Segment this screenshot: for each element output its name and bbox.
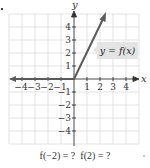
right-ray-arrow-icon (100, 12, 107, 22)
function-graph: y = f(x) y x −4 −3 −2 −1 1 2 3 4 4 3 2 1… (0, 0, 150, 168)
svg-text:−3: −3 (58, 113, 72, 123)
function-curve (9, 12, 106, 82)
svg-text:−4: −4 (58, 126, 72, 136)
svg-text:−2: −2 (58, 100, 71, 110)
question-caption: f(−2) = ? f(2) = ? (0, 150, 150, 161)
svg-text:−4: −4 (14, 82, 28, 92)
svg-text:−2: −2 (40, 82, 53, 92)
svg-text:4: 4 (65, 22, 71, 32)
decorative-dot (143, 155, 145, 157)
y-axis-label: y (71, 0, 78, 10)
svg-text:2: 2 (97, 82, 103, 92)
x-axis-arrow-icon (133, 77, 139, 82)
svg-text:−3: −3 (27, 82, 41, 92)
svg-text:1: 1 (65, 61, 71, 71)
svg-text:−1: −1 (58, 87, 71, 97)
svg-text:2: 2 (65, 48, 71, 58)
svg-text:4: 4 (123, 82, 129, 92)
function-label: y = f(x) (99, 45, 136, 56)
svg-text:3: 3 (65, 35, 71, 45)
question-f-neg2: f(−2) = ? (40, 150, 76, 161)
svg-text:3: 3 (110, 82, 116, 92)
x-axis-label: x (141, 73, 147, 84)
x-tick-labels: −4 −3 −2 −1 1 2 3 4 (14, 82, 129, 92)
question-f-2: f(2) = ? (80, 150, 110, 161)
svg-text:1: 1 (84, 82, 90, 92)
